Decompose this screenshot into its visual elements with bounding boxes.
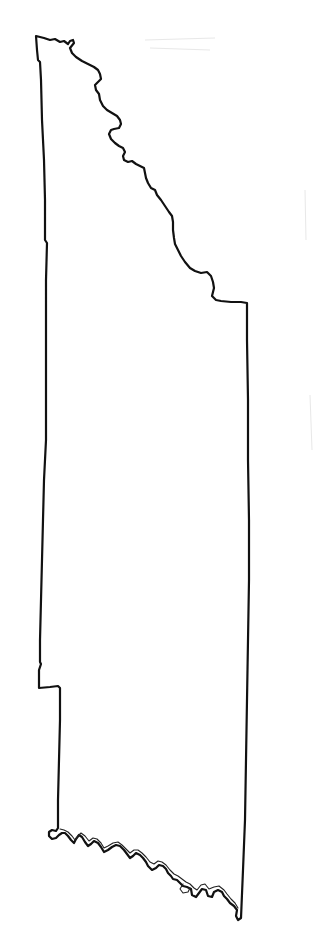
county-map [0,0,330,950]
county-boundary [36,36,249,920]
